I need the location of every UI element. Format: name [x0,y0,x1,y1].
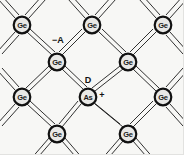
atom-node[interactable]: Ge [49,54,66,71]
atom-node[interactable]: Ge [120,54,137,71]
atom-symbol: Ge [123,130,133,139]
crystal-lattice-figure: Ge Ge Ge Ge Ge Ge [0,0,184,155]
atom-node[interactable]: Ge [120,126,137,143]
atom-symbol: Ge [17,93,27,102]
atom-symbol: Ge [158,93,168,102]
lattice-diagram: Ge Ge Ge Ge Ge Ge [0,0,184,155]
atom-node[interactable]: Ge [14,89,31,106]
atom-node[interactable]: Ge [84,17,101,34]
atom-symbol: As [83,93,92,102]
atom-symbol: Ge [52,130,62,139]
acceptor-label: −A [52,35,64,45]
donor-label: D [85,75,92,85]
atom-node[interactable]: Ge [155,17,172,34]
atom-symbol: Ge [123,58,133,67]
atom-node[interactable]: Ge [49,126,66,143]
atom-symbol: Ge [17,21,27,30]
plus-charge-label: + [99,90,104,100]
atom-symbol: Ge [52,58,62,67]
dopant-atom-node[interactable]: As [80,89,97,106]
atom-node[interactable]: Ge [155,89,172,106]
atom-symbol: Ge [158,21,168,30]
atom-symbol: Ge [87,21,97,30]
atom-node[interactable]: Ge [14,17,31,34]
